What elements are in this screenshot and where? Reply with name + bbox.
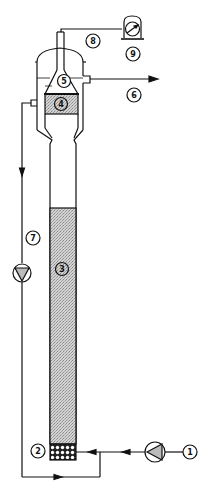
label-6: 6 xyxy=(131,91,137,100)
product-outlet xyxy=(83,76,158,83)
pressure-gauge-icon xyxy=(121,16,144,39)
reactor-diagram: 1 2 3 4 5 6 7 8 9 xyxy=(0,0,217,489)
fluidized-bed xyxy=(50,208,76,444)
label-5: 5 xyxy=(61,77,67,86)
label-7: 7 xyxy=(30,234,36,243)
recycle-pump-icon xyxy=(13,264,31,282)
label-8: 8 xyxy=(90,37,96,46)
label-2: 2 xyxy=(35,447,41,456)
label-1: 1 xyxy=(187,448,193,457)
label-3: 3 xyxy=(59,265,65,274)
label-9: 9 xyxy=(130,50,136,59)
vent-tube xyxy=(57,32,64,70)
label-4: 4 xyxy=(58,100,64,109)
gas-distributor xyxy=(50,444,76,460)
feed-pump-icon xyxy=(145,442,165,462)
pressure-line xyxy=(61,29,122,32)
